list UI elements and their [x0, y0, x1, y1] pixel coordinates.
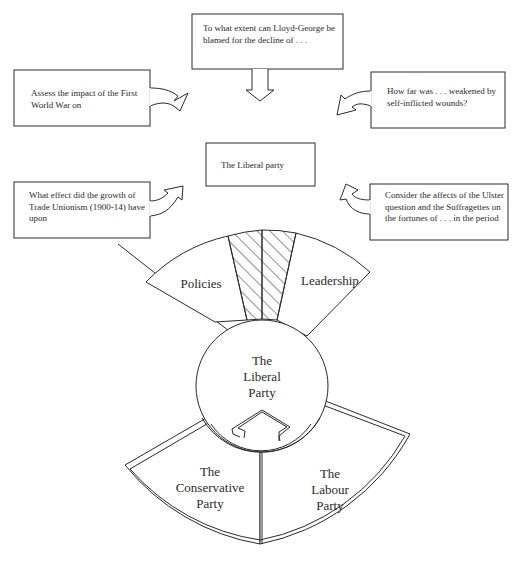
labour-line3: Party	[290, 498, 370, 514]
labour-party-label: The Labour Party	[290, 466, 370, 514]
conservative-line2: Conservative	[160, 480, 260, 496]
labour-line1: The	[290, 466, 370, 482]
question-upper-right-text: How far was . . . weakened by self-infli…	[387, 86, 499, 109]
conservative-line3: Party	[160, 496, 260, 512]
liberal-line3: Party	[222, 385, 302, 401]
question-lower-left-text: What effect did the growth of Trade Unio…	[29, 190, 149, 225]
question-top-text: To what extent can Lloyd-George be blame…	[203, 23, 335, 46]
segment-leadership-label: Leadership	[290, 273, 370, 289]
question-lower-right-text: Consider the affects of the Ulster quest…	[385, 190, 507, 225]
question-upper-left-text: Assess the impact of the First World War…	[31, 88, 143, 111]
central-box-text: The Liberal party	[221, 160, 311, 172]
liberal-line2: Liberal	[222, 369, 302, 385]
liberal-line1: The	[222, 353, 302, 369]
conservative-party-label: The Conservative Party	[160, 464, 260, 512]
conservative-line1: The	[160, 464, 260, 480]
labour-line2: Labour	[290, 482, 370, 498]
segment-policies-label: Policies	[166, 276, 236, 292]
liberal-party-label: The Liberal Party	[222, 353, 302, 401]
